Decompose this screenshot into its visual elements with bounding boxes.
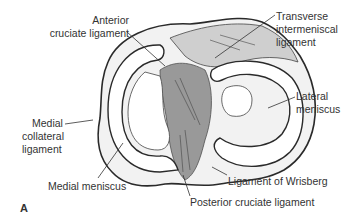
label-medial-collateral-ligament: Medial collateral ligament	[22, 117, 64, 156]
label-line: Lateral	[296, 90, 340, 103]
label-line: collateral	[22, 130, 64, 143]
label-line: cruciate ligament	[46, 27, 129, 40]
label-anterior-cruciate-ligament: Anterior cruciate ligament	[46, 14, 129, 40]
knee-anatomy-figure: Anterior cruciate ligament Transverse in…	[0, 0, 356, 215]
label-line: meniscus	[296, 103, 340, 116]
label-medial-meniscus: Medial meniscus	[48, 180, 126, 193]
label-posterior-cruciate-ligament: Posterior cruciate ligament	[190, 196, 314, 209]
label-line: Transverse	[276, 10, 338, 23]
panel-letter: A	[20, 202, 28, 214]
label-line: Anterior	[46, 14, 129, 27]
label-line: ligament	[22, 143, 64, 156]
label-line: ligament	[276, 36, 338, 49]
label-line: intermeniscal	[276, 23, 338, 36]
label-ligament-of-wrisberg: Ligament of Wrisberg	[228, 175, 328, 188]
lateral-plateau-surface	[222, 86, 252, 117]
label-transverse-intermeniscal-ligament: Transverse intermeniscal ligament	[276, 10, 338, 49]
label-lateral-meniscus: Lateral meniscus	[296, 90, 340, 116]
label-line: Medial	[22, 117, 64, 130]
